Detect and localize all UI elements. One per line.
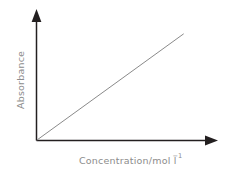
chart-canvas: Concentration/mol l −1 Absorbance — [0, 0, 234, 175]
data-series-line — [37, 34, 184, 140]
x-axis-arrowhead — [205, 136, 218, 146]
y-axis-label: Absorbance — [15, 51, 26, 109]
x-axis-label: Concentration/mol l — [79, 155, 177, 166]
y-axis-arrowhead — [32, 9, 42, 22]
absorbance-concentration-chart: Concentration/mol l −1 Absorbance — [0, 0, 234, 175]
x-axis-label-superscript: −1 — [173, 152, 183, 160]
